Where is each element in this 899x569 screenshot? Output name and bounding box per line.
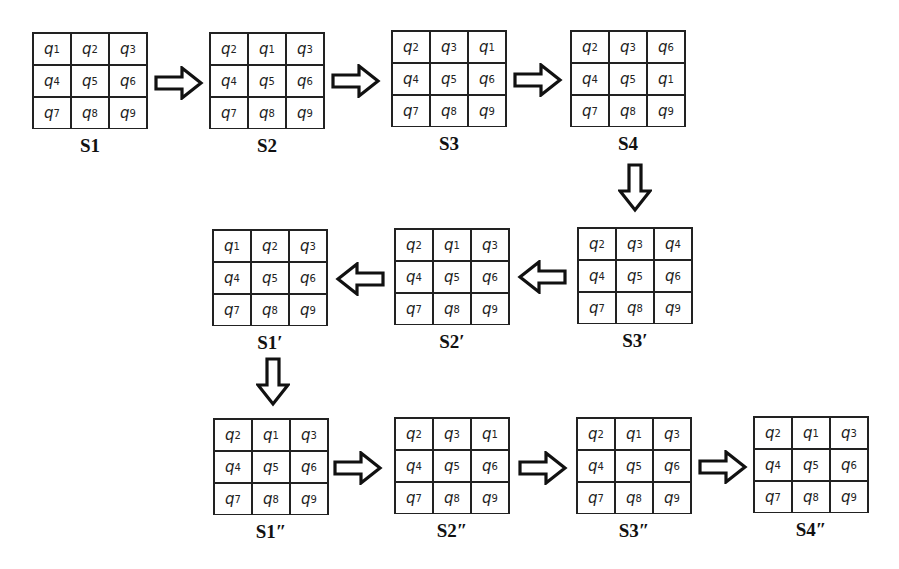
arrow-down-icon [618, 163, 652, 213]
grid-cell: q6 [109, 65, 147, 97]
grid-cell: q5 [616, 260, 654, 292]
grid-cell: q2 [392, 31, 430, 63]
grid-cell: q8 [433, 293, 471, 325]
grid-cell: q1 [252, 419, 290, 451]
state-s1: q1q2q3q4q5q6q7q8q9S1 [32, 32, 148, 129]
grid-cell: q9 [654, 292, 692, 324]
grid-cell: q6 [471, 261, 509, 293]
grid-cell: q3 [286, 33, 324, 65]
grid-cell: q2 [571, 31, 609, 63]
state-s3p: q2q3q4q4q5q6q7q8q9S3′ [577, 227, 693, 324]
grid-cell: q9 [647, 95, 685, 127]
grid-cell: q6 [286, 65, 324, 97]
grid-cell: q5 [609, 63, 647, 95]
state-grid: q2q3q1q4q5q6q7q8q9 [394, 417, 510, 514]
grid-cell: q2 [395, 229, 433, 261]
state-s3pp: q2q1q3q4q5q6q7q8q9S3″ [576, 417, 692, 514]
state-s2pp: q2q3q1q4q5q6q7q8q9S2″ [394, 417, 510, 514]
grid-cell: q2 [214, 419, 252, 451]
grid-cell: q9 [471, 293, 509, 325]
grid-cell: q9 [468, 95, 506, 127]
state-grid: q1q2q3q4q5q6q7q8q9 [32, 32, 148, 129]
grid-cell: q2 [754, 417, 792, 449]
state-s4: q2q3q6q4q5q1q7q8q9S4 [570, 30, 686, 127]
state-grid: q2q1q3q4q5q6q7q8q9 [213, 418, 329, 515]
grid-cell: q5 [792, 449, 830, 481]
state-grid: q2q3q4q4q5q6q7q8q9 [577, 227, 693, 324]
grid-cell: q8 [252, 483, 290, 515]
arrow-right-icon [331, 64, 381, 98]
grid-cell: q8 [71, 97, 109, 129]
grid-cell: q8 [248, 97, 286, 129]
grid-cell: q5 [71, 65, 109, 97]
grid-cell: q1 [468, 31, 506, 63]
grid-cell: q8 [615, 482, 653, 514]
grid-cell: q4 [654, 228, 692, 260]
grid-cell: q3 [653, 418, 691, 450]
grid-cell: q9 [830, 481, 868, 513]
grid-cell: q7 [210, 97, 248, 129]
grid-cell: q5 [430, 63, 468, 95]
grid-cell: q7 [214, 483, 252, 515]
grid-cell: q3 [289, 230, 327, 262]
grid-cell: q8 [251, 294, 289, 326]
grid-cell: q2 [251, 230, 289, 262]
grid-cell: q8 [433, 482, 471, 514]
grid-cell: q5 [615, 450, 653, 482]
state-label: S2′ [394, 331, 510, 353]
grid-cell: q5 [433, 261, 471, 293]
grid-cell: q5 [251, 262, 289, 294]
grid-cell: q1 [433, 229, 471, 261]
grid-cell: q4 [210, 65, 248, 97]
state-label: S1′ [212, 332, 328, 354]
grid-cell: q4 [395, 450, 433, 482]
state-label: S2″ [394, 520, 510, 542]
grid-cell: q5 [433, 450, 471, 482]
state-label: S4″ [753, 519, 869, 541]
state-grid: q2q1q3q4q5q6q7q8q9 [576, 417, 692, 514]
grid-cell: q7 [392, 95, 430, 127]
grid-cell: q6 [289, 262, 327, 294]
grid-cell: q6 [654, 260, 692, 292]
grid-cell: q7 [571, 95, 609, 127]
state-grid: q2q1q3q4q5q6q7q8q9 [209, 32, 325, 129]
grid-cell: q7 [213, 294, 251, 326]
grid-cell: q7 [754, 481, 792, 513]
arrow-left-icon [335, 262, 385, 296]
grid-cell: q6 [653, 450, 691, 482]
grid-cell: q7 [577, 482, 615, 514]
grid-cell: q1 [471, 418, 509, 450]
grid-cell: q7 [578, 292, 616, 324]
arrow-right-icon [513, 63, 563, 97]
grid-cell: q4 [395, 261, 433, 293]
grid-cell: q8 [430, 95, 468, 127]
state-s1pp: q2q1q3q4q5q6q7q8q9S1″ [213, 418, 329, 515]
state-s4pp: q2q1q3q4q5q6q7q8q9S4″ [753, 416, 869, 513]
state-label: S3′ [577, 330, 693, 352]
grid-cell: q2 [578, 228, 616, 260]
grid-cell: q8 [609, 95, 647, 127]
grid-cell: q1 [248, 33, 286, 65]
arrow-right-icon [154, 66, 204, 100]
grid-cell: q3 [616, 228, 654, 260]
grid-cell: q3 [609, 31, 647, 63]
grid-cell: q4 [571, 63, 609, 95]
grid-cell: q9 [653, 482, 691, 514]
grid-cell: q4 [214, 451, 252, 483]
grid-cell: q6 [471, 450, 509, 482]
grid-cell: q4 [754, 449, 792, 481]
grid-cell: q5 [252, 451, 290, 483]
grid-cell: q3 [109, 33, 147, 65]
grid-cell: q2 [395, 418, 433, 450]
grid-cell: q4 [213, 262, 251, 294]
grid-cell: q7 [395, 293, 433, 325]
grid-cell: q3 [290, 419, 328, 451]
state-grid: q2q1q3q4q5q6q7q8q9 [394, 228, 510, 325]
grid-cell: q9 [289, 294, 327, 326]
state-label: S1″ [213, 521, 329, 543]
arrow-left-icon [517, 260, 567, 294]
state-label: S3 [391, 133, 507, 155]
grid-cell: q1 [213, 230, 251, 262]
arrow-right-icon [518, 451, 568, 485]
grid-cell: q4 [577, 450, 615, 482]
